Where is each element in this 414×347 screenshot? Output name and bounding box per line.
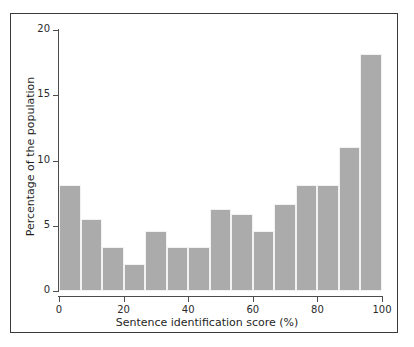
x-tick-label: 40 xyxy=(182,304,195,315)
x-tick-mark xyxy=(382,297,383,302)
y-tick-mark xyxy=(53,226,58,227)
y-tick-mark xyxy=(53,291,58,292)
bar xyxy=(339,147,361,291)
x-tick-label: 60 xyxy=(246,304,259,315)
x-tick-mark xyxy=(317,297,318,302)
bar xyxy=(188,247,210,291)
x-tick-label: 100 xyxy=(372,304,391,315)
bar xyxy=(167,247,189,291)
bar xyxy=(59,185,81,291)
bar xyxy=(360,54,382,292)
x-axis-line xyxy=(58,296,383,297)
x-tick-mark xyxy=(124,297,125,302)
bar xyxy=(231,214,253,291)
figure-canvas: 05101520 020406080100 Sentence identific… xyxy=(0,0,414,347)
bar xyxy=(210,209,232,291)
x-tick-mark xyxy=(253,297,254,302)
y-tick-mark xyxy=(53,161,58,162)
bar xyxy=(317,185,339,291)
plot-area xyxy=(59,30,382,291)
y-tick-mark xyxy=(53,30,58,31)
bar xyxy=(124,264,146,291)
bar xyxy=(296,185,318,291)
x-tick-mark xyxy=(59,297,60,302)
bar xyxy=(102,247,124,291)
x-tick-label: 0 xyxy=(56,304,62,315)
x-tick-label: 80 xyxy=(311,304,324,315)
y-tick-mark xyxy=(53,95,58,96)
bar xyxy=(274,204,296,291)
y-tick-label: 0 xyxy=(34,284,50,295)
y-axis-label: Percentage of the population xyxy=(24,57,37,257)
bar xyxy=(145,231,167,291)
x-tick-label: 20 xyxy=(117,304,130,315)
x-axis-label: Sentence identification score (%) xyxy=(0,316,414,329)
bar xyxy=(81,219,103,291)
bar xyxy=(253,231,275,291)
y-tick-label: 20 xyxy=(34,23,50,34)
x-tick-mark xyxy=(188,297,189,302)
